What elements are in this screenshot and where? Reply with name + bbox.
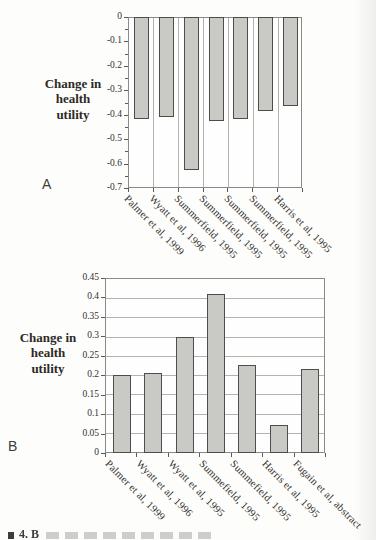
panel-a-bar xyxy=(283,17,298,106)
panel-a-y-minor-tick-mark xyxy=(125,176,128,177)
panel-b-category-label: Wyatt et al, 1996 xyxy=(134,458,195,519)
panel-a-y-tick-label: -0.2 xyxy=(107,61,122,71)
panel-b-y-tick-mark xyxy=(101,278,105,279)
figure-caption-fragment: 4. B xyxy=(8,527,370,540)
panel-a-x-tick-mark xyxy=(128,188,129,192)
panel-b-bar xyxy=(207,294,225,453)
panel-a-y-axis-title: Change in health utility xyxy=(38,76,108,122)
panel-b-y-tick-mark xyxy=(101,297,105,298)
panel-a-y-tick-mark xyxy=(124,164,128,165)
panel-b-y-tick-mark xyxy=(101,395,105,396)
panel-a-x-tick-mark xyxy=(252,188,253,192)
panel-a-gridline xyxy=(228,18,229,187)
panel-a-gridline xyxy=(253,18,254,187)
panel-a-y-tick-mark xyxy=(124,115,128,116)
panel-b-y-tick-label: 0.45 xyxy=(82,273,99,283)
panel-a-bar xyxy=(184,17,199,170)
panel-b-bar xyxy=(144,373,162,453)
panel-a-plot-area xyxy=(128,17,302,188)
panel-b-category-label: Wyatt et al, 1995 xyxy=(166,458,227,519)
panel-a-bar xyxy=(258,17,273,111)
page-edge-shadow xyxy=(354,0,376,540)
panel-b-y-tick-mark xyxy=(101,336,105,337)
panel-b-y-tick-label: 0.3 xyxy=(87,332,99,342)
panel-a-y-tick-label: -0.3 xyxy=(107,86,122,96)
panel-a-gridline xyxy=(278,18,279,187)
panel-a-x-tick-mark xyxy=(178,188,179,192)
panel-a-y-tick-label: -0.4 xyxy=(107,110,122,120)
panel-b-bar xyxy=(301,369,319,453)
panel-b-y-tick-label: 0.4 xyxy=(87,293,99,303)
panel-b-label: B xyxy=(8,438,17,454)
panel-b-bar xyxy=(113,375,131,453)
panel-b-y-tick-mark xyxy=(101,434,105,435)
panel-a-x-tick-mark xyxy=(153,188,154,192)
panel-b-x-tick-mark xyxy=(136,453,137,457)
panel-b-y-tick-mark xyxy=(101,356,105,357)
figure-page: Change in health utility A Change in hea… xyxy=(0,0,376,540)
panel-b-y-tick-mark xyxy=(101,375,105,376)
panel-a-y-tick-label: -0.1 xyxy=(107,37,122,47)
caption-marker-icon xyxy=(8,532,14,539)
panel-a-y-tick-mark xyxy=(124,41,128,42)
panel-b-bar xyxy=(270,425,288,453)
panel-a-y-tick-label: -0.5 xyxy=(107,134,122,144)
panel-a-y-tick-label: 0 xyxy=(117,12,122,22)
panel-b-x-tick-mark xyxy=(105,453,106,457)
panel-a-bar xyxy=(159,17,174,117)
panel-a-y-minor-tick-mark xyxy=(125,29,128,30)
panel-b-y-tick-label: 0.25 xyxy=(82,351,99,361)
panel-b-plot-area xyxy=(105,278,325,453)
panel-b-bar xyxy=(176,337,194,453)
panel-b-y-tick-label: 0.2 xyxy=(87,370,99,380)
caption-number: 4. B xyxy=(19,527,39,540)
panel-b-y-tick-mark xyxy=(101,414,105,415)
panel-a-x-tick-mark xyxy=(277,188,278,192)
panel-a-bar xyxy=(134,17,149,119)
panel-b-y-tick-label: 0.05 xyxy=(82,429,99,439)
panel-b-x-tick-mark xyxy=(294,453,295,457)
panel-b-y-tick-mark xyxy=(101,317,105,318)
caption-illegible-text xyxy=(46,532,216,539)
panel-a-y-minor-tick-mark xyxy=(125,127,128,128)
panel-b-x-tick-mark xyxy=(262,453,263,457)
panel-a-x-tick-mark xyxy=(227,188,228,192)
panel-b-y-axis-title: Change in health utility xyxy=(13,330,83,376)
panel-b-x-tick-mark xyxy=(325,453,326,457)
panel-b-y-tick-label: 0.35 xyxy=(82,312,99,322)
panel-a-y-tick-mark xyxy=(124,139,128,140)
panel-a-x-tick-mark xyxy=(302,188,303,192)
panel-a-y-minor-tick-mark xyxy=(125,78,128,79)
panel-a-gridline xyxy=(178,18,179,187)
panel-a-x-tick-mark xyxy=(203,188,204,192)
panel-a-y-tick-mark xyxy=(124,66,128,67)
panel-a-y-minor-tick-mark xyxy=(125,103,128,104)
panel-b-y-tick-label: 0 xyxy=(94,448,99,458)
panel-b-bar xyxy=(238,365,256,453)
panel-a-gridline xyxy=(203,18,204,187)
panel-b-y-tick-label: 0.15 xyxy=(82,390,99,400)
panel-a-y-minor-tick-mark xyxy=(125,54,128,55)
panel-a-y-tick-mark xyxy=(124,90,128,91)
panel-b-category-label: Harris et al, 1995 xyxy=(260,458,322,520)
panel-a-y-tick-label: -0.6 xyxy=(107,159,122,169)
panel-a-y-tick-mark xyxy=(124,17,128,18)
panel-a-bar xyxy=(209,17,224,121)
panel-b-x-tick-mark xyxy=(199,453,200,457)
panel-a-bar xyxy=(233,17,248,119)
panel-a-gridline xyxy=(153,18,154,187)
panel-b-y-tick-label: 0.1 xyxy=(87,409,99,419)
panel-a-y-minor-tick-mark xyxy=(125,151,128,152)
panel-a-y-tick-label: -0.7 xyxy=(107,183,122,193)
panel-b-x-tick-mark xyxy=(231,453,232,457)
panel-a-label: A xyxy=(42,176,51,192)
panel-b-x-tick-mark xyxy=(168,453,169,457)
